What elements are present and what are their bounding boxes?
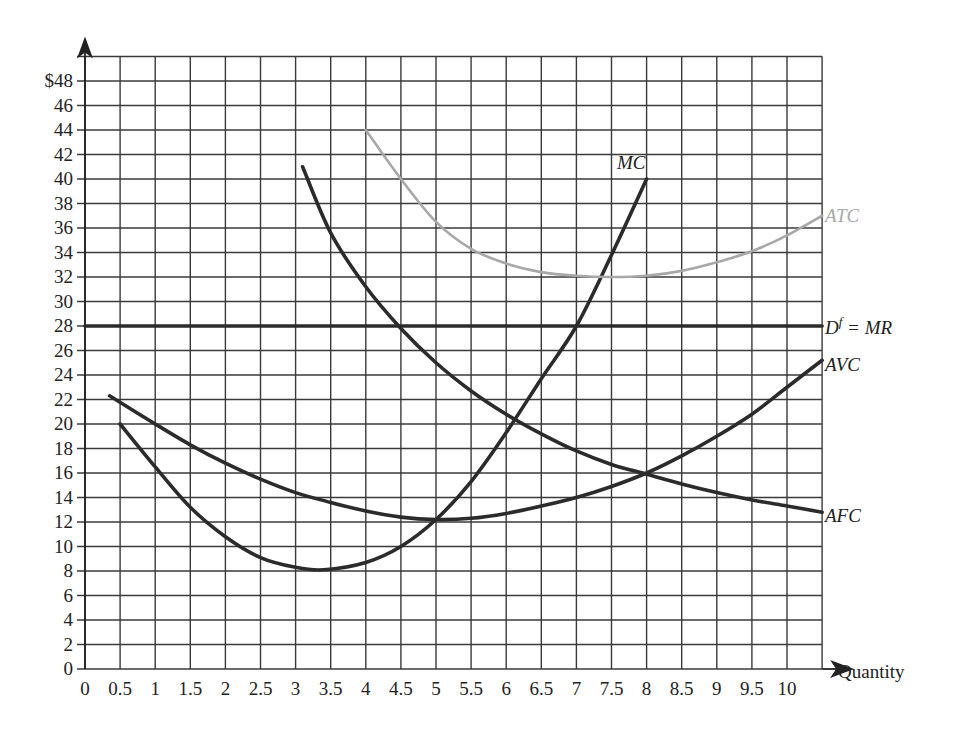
afc-label: AFC <box>823 505 861 526</box>
x-tick-label: 0 <box>80 678 90 699</box>
y-tick-label: 14 <box>54 487 74 508</box>
y-tick-label: 32 <box>54 266 73 287</box>
y-tick-label: 36 <box>54 217 73 238</box>
y-tick-label: 2 <box>64 634 74 655</box>
afc-curve <box>303 167 822 512</box>
y-tick-label: 38 <box>54 193 73 214</box>
y-tick-label: 18 <box>54 438 73 459</box>
y-tick-label: 30 <box>54 291 73 312</box>
x-tick-label: 3.5 <box>319 678 343 699</box>
y-tick-label: 16 <box>54 462 73 483</box>
x-tick-label: 5 <box>431 678 441 699</box>
x-tick-label: 7 <box>572 678 582 699</box>
y-tick-label: 10 <box>54 536 73 557</box>
x-axis-ticks: 00.511.522.533.544.555.566.577.588.599.5… <box>80 678 796 699</box>
y-tick-label: 24 <box>54 364 74 385</box>
grid <box>77 57 822 670</box>
y-tick-label: 46 <box>54 95 73 116</box>
x-tick-label: 7.5 <box>600 678 624 699</box>
y-tick-label: 26 <box>54 340 73 361</box>
atc-label: ATC <box>823 205 859 226</box>
x-tick-label: 6 <box>501 678 511 699</box>
y-tick-label: 34 <box>54 242 74 263</box>
avc-curve <box>110 360 823 519</box>
df-label-d: D <box>824 317 839 338</box>
x-tick-label: 9.5 <box>740 678 764 699</box>
y-tick-label: 44 <box>54 119 74 140</box>
x-tick-label: 1 <box>150 678 160 699</box>
x-axis-label: Quantity <box>838 661 905 682</box>
y-tick-label: 22 <box>54 389 73 410</box>
y-tick-label: 20 <box>54 413 73 434</box>
y-axis-ticks: 0246810121416182022242628303234363840424… <box>45 70 74 679</box>
df-mr-label: Df = MR <box>824 314 893 338</box>
x-tick-label: 6.5 <box>529 678 553 699</box>
x-tick-label: 3 <box>291 678 301 699</box>
x-tick-label: 10 <box>778 678 797 699</box>
x-tick-label: 1.5 <box>178 678 202 699</box>
x-tick-label: 8.5 <box>670 678 694 699</box>
x-tick-label: 2.5 <box>249 678 273 699</box>
x-tick-label: 4 <box>361 678 371 699</box>
x-tick-label: 0.5 <box>108 678 132 699</box>
y-tick-label: 0 <box>64 658 74 679</box>
y-tick-label: 4 <box>64 609 74 630</box>
y-tick-label: 8 <box>64 560 74 581</box>
y-tick-label: 28 <box>54 315 73 336</box>
axes <box>77 37 854 679</box>
y-tick-label: 12 <box>54 511 73 532</box>
x-tick-label: 5.5 <box>459 678 483 699</box>
avc-label: AVC <box>823 354 860 375</box>
df-label-rest: = MR <box>842 317 892 338</box>
y-tick-label: 6 <box>64 585 74 606</box>
x-tick-label: 9 <box>712 678 722 699</box>
mc-label: MC <box>616 152 646 173</box>
x-tick-label: 4.5 <box>389 678 413 699</box>
y-tick-label: $48 <box>45 70 74 91</box>
y-tick-label: 42 <box>54 144 73 165</box>
y-tick-label: 40 <box>54 168 73 189</box>
x-tick-label: 8 <box>642 678 652 699</box>
cost-curves-chart: 0246810121416182022242628303234363840424… <box>0 0 957 730</box>
x-tick-label: 2 <box>221 678 231 699</box>
curve-labels: MC ATC Df = MR AVC AFC Quantity <box>616 152 905 682</box>
